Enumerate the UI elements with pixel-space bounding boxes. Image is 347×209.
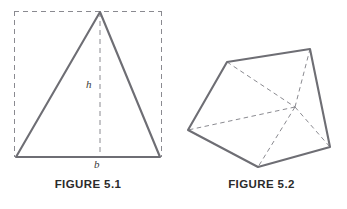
- height-label: h: [86, 79, 92, 90]
- figure-5-1-panel: h b FIGURE 5.1: [0, 0, 176, 209]
- figure-5-2-caption: FIGURE 5.2: [176, 178, 347, 190]
- prism-hidden-edges: [188, 49, 330, 167]
- prism-diagram: [176, 0, 347, 176]
- base-label: b: [94, 159, 100, 170]
- hidden-edge-back-nearleft: [188, 107, 295, 130]
- figure-5-1-caption: FIGURE 5.1: [0, 178, 176, 190]
- hidden-edge-back-fartopright: [295, 49, 310, 107]
- prism-outline: [188, 49, 330, 167]
- figure-board: h b FIGURE 5.1 FIGURE 5.2: [0, 0, 347, 209]
- hidden-edge-back-farright: [295, 107, 330, 147]
- figure-5-2-panel: FIGURE 5.2: [176, 0, 347, 209]
- hidden-edge-topleft-back: [227, 62, 295, 107]
